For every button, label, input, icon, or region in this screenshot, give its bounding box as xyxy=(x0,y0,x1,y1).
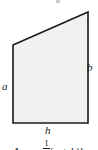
area-formula-caption: Area =12(a + b)h xyxy=(0,139,98,150)
base-label-h: h xyxy=(45,125,51,136)
side-label-b: b xyxy=(87,62,93,73)
formula-term-a: a xyxy=(53,145,59,150)
top-crop-artifact xyxy=(56,0,60,3)
trapezoid-figure: a b h Area =12(a + b)h xyxy=(0,0,98,150)
side-label-a: a xyxy=(2,81,8,92)
formula-plus: + xyxy=(62,145,68,150)
formula-term-h: h xyxy=(80,145,86,150)
trapezoid-polygon xyxy=(13,12,88,123)
formula-lead: Area = xyxy=(13,145,43,150)
